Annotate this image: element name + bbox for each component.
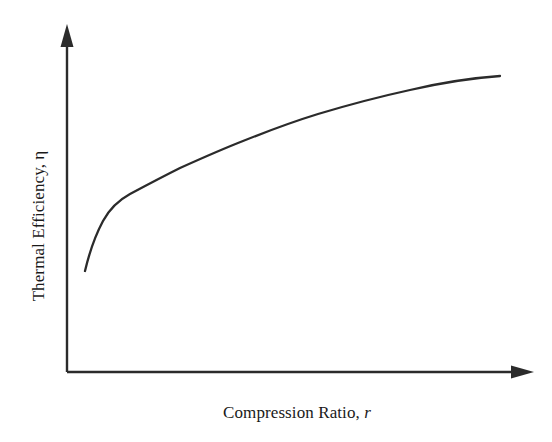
efficiency-curve [85,76,500,271]
x-axis-label-symbol: r [364,403,371,422]
chart-canvas: Compression Ratio, r [0,0,552,442]
x-axis-arrow-icon [511,366,534,379]
chart-figure: Compression Ratio, r Thermal Efficiency,… [0,0,552,442]
x-axis-label: Compression Ratio, r [223,403,371,422]
y-axis-arrow-icon [61,24,74,47]
x-axis-label-prefix: Compression Ratio, [223,403,364,422]
